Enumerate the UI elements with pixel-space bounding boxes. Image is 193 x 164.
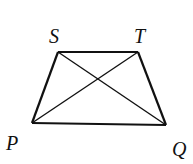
trapezoid-diagram: S T P Q <box>0 0 193 164</box>
diagonal-sq <box>58 52 166 125</box>
side-qp <box>32 123 166 125</box>
vertex-label-p: P <box>5 132 18 154</box>
vertex-label-t: T <box>134 25 147 47</box>
side-tq <box>138 52 166 125</box>
trapezoid-sides <box>32 52 166 125</box>
vertex-label-s: S <box>49 25 59 47</box>
diagonal-pt <box>32 52 138 123</box>
side-ps <box>32 52 58 123</box>
diagonals <box>32 52 166 125</box>
vertex-label-q: Q <box>172 138 187 160</box>
